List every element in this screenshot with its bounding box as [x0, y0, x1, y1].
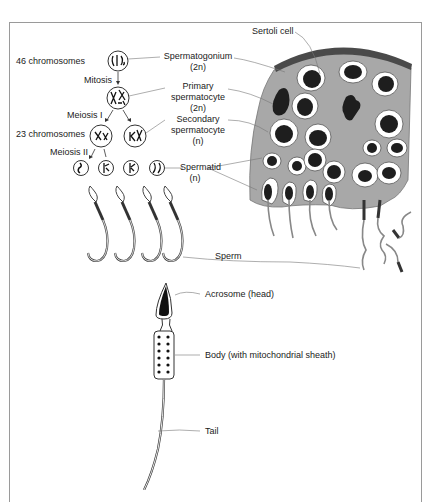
- label-sertoli-cell: Sertoli cell: [252, 26, 294, 37]
- label-23-chromosomes: 23 chromosomes: [16, 129, 85, 140]
- spermatid-ploidy: (n): [180, 173, 210, 184]
- label-meiosis-1: Meiosis I: [67, 110, 103, 121]
- primary-name2: spermatocyte: [165, 92, 231, 103]
- label-tail: Tail: [205, 426, 219, 437]
- spermatid-name: Spermatid: [180, 162, 210, 173]
- spermatid-cells: [74, 161, 165, 176]
- label-mitosis: Mitosis: [84, 75, 112, 86]
- primary-spermatocyte-cell: [107, 87, 129, 109]
- label-body-mitochondrial-sheath: Body (with mitochondrial sheath): [205, 350, 336, 361]
- seminiferous-tubule: [250, 47, 412, 272]
- secondary-name: Secondary: [165, 114, 231, 125]
- label-spermatogonium: Spermatogonium (2n): [160, 51, 236, 73]
- primary-ploidy: (2n): [165, 103, 231, 114]
- secondary-spermatocyte-cell-1: [90, 125, 112, 147]
- released-sperm: [362, 200, 411, 272]
- spermatogonium-cell: [108, 51, 128, 71]
- secondary-ploidy: (n): [165, 136, 231, 147]
- label-meiosis-2: Meiosis II: [50, 147, 88, 158]
- label-acrosome-head: Acrosome (head): [205, 289, 274, 300]
- secondary-spermatocyte-cell-2: [124, 125, 146, 147]
- label-spermatid: Spermatid (n): [180, 162, 210, 184]
- secondary-name2: spermatocyte: [165, 125, 231, 136]
- spermatogonium-ploidy: (2n): [160, 62, 236, 73]
- label-primary-spermatocyte: Primary spermatocyte (2n): [165, 81, 231, 114]
- developing-sperm: [88, 186, 183, 261]
- label-secondary-spermatocyte: Secondary spermatocyte (n): [165, 114, 231, 147]
- spermatogonium-name: Spermatogonium: [160, 51, 236, 62]
- primary-name: Primary: [165, 81, 231, 92]
- sperm-anatomy-illustration: [144, 283, 200, 490]
- label-sperm: Sperm: [215, 251, 242, 262]
- label-46-chromosomes: 46 chromosomes: [16, 56, 85, 67]
